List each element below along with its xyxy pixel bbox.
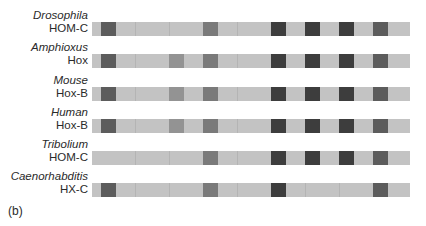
segment-divider (237, 87, 238, 101)
gene-block (169, 119, 184, 133)
row-human: Human Hox-B (0, 106, 426, 136)
gene-block (373, 183, 388, 197)
segment-divider (305, 183, 306, 197)
gene-block (101, 87, 116, 101)
row-mouse: Mouse Hox-B (0, 74, 426, 104)
gene-block (305, 54, 320, 68)
gene-block (373, 151, 388, 165)
gene-block (203, 22, 218, 36)
gene-cluster-bar (92, 119, 410, 133)
gene-block (169, 87, 184, 101)
gene-block (305, 151, 320, 165)
segment-divider (237, 151, 238, 165)
cluster-name: HOM-C (0, 151, 88, 164)
gene-block (271, 22, 286, 36)
segment-divider (169, 151, 170, 165)
cluster-name: Hox-B (0, 87, 88, 100)
segment-divider (237, 22, 238, 36)
cluster-name: HX-C (0, 183, 88, 196)
row-label: Tribolium HOM-C (0, 138, 88, 164)
gene-block (305, 87, 320, 101)
gene-block (339, 151, 354, 165)
gene-block (271, 119, 286, 133)
gene-cluster-bar (92, 87, 410, 101)
segment-divider (135, 119, 136, 133)
gene-block (339, 87, 354, 101)
segment-divider (169, 22, 170, 36)
gene-cluster-bar (92, 54, 410, 68)
segment-divider (237, 183, 238, 197)
gene-block (339, 119, 354, 133)
segment-divider (135, 151, 136, 165)
gene-cluster-bar (92, 151, 410, 165)
row-label: Drosophila HOM-C (0, 9, 88, 35)
row-caenorhabditis: Caenorhabditis HX-C (0, 170, 426, 200)
gene-block (305, 22, 320, 36)
row-label: Human Hox-B (0, 106, 88, 132)
species-name: Caenorhabditis (0, 170, 88, 183)
gene-block (169, 54, 184, 68)
row-label: Mouse Hox-B (0, 74, 88, 100)
segment-divider (169, 183, 170, 197)
gene-cluster-bar (92, 22, 410, 36)
gene-block (373, 87, 388, 101)
gene-block (203, 151, 218, 165)
cluster-name: Hox (0, 54, 88, 67)
gene-cluster-bar (92, 183, 410, 197)
gene-block (339, 22, 354, 36)
gene-block (373, 119, 388, 133)
segment-divider (237, 54, 238, 68)
gene-block (101, 54, 116, 68)
gene-block (203, 54, 218, 68)
gene-block (339, 54, 354, 68)
species-name: Amphioxus (0, 41, 88, 54)
segment-divider (135, 22, 136, 36)
row-label: Amphioxus Hox (0, 41, 88, 67)
gene-block (305, 119, 320, 133)
row-drosophila: Drosophila HOM-C (0, 9, 426, 39)
gene-block (373, 22, 388, 36)
gene-block (271, 183, 286, 197)
row-label: Caenorhabditis HX-C (0, 170, 88, 196)
segment-divider (339, 183, 340, 197)
gene-block (203, 119, 218, 133)
gene-block (101, 22, 116, 36)
segment-divider (135, 183, 136, 197)
species-name: Human (0, 106, 88, 119)
species-name: Tribolium (0, 138, 88, 151)
cluster-name: Hox-B (0, 119, 88, 132)
gene-block (203, 87, 218, 101)
gene-block (101, 119, 116, 133)
gene-block (271, 87, 286, 101)
species-name: Mouse (0, 74, 88, 87)
segment-divider (135, 54, 136, 68)
gene-block (271, 54, 286, 68)
row-amphioxus: Amphioxus Hox (0, 41, 426, 71)
cluster-name: HOM-C (0, 22, 88, 35)
segment-divider (237, 119, 238, 133)
gene-block (373, 54, 388, 68)
gene-block (101, 183, 116, 197)
segment-divider (135, 87, 136, 101)
panel-label: (b) (8, 204, 23, 218)
gene-block (203, 183, 218, 197)
row-tribolium: Tribolium HOM-C (0, 138, 426, 168)
species-name: Drosophila (0, 9, 88, 22)
gene-block (271, 151, 286, 165)
